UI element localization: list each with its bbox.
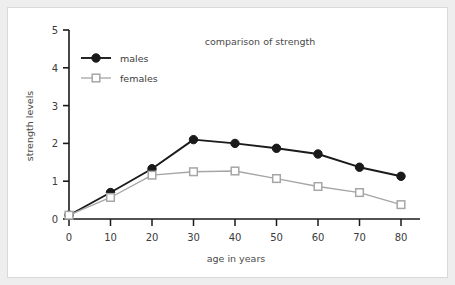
x-axis-title: age in years xyxy=(207,253,266,264)
marker-females-80 xyxy=(397,201,405,209)
marker-females-50 xyxy=(273,175,281,183)
x-tick-label-80: 80 xyxy=(395,232,408,243)
x-tick-label-60: 60 xyxy=(312,232,325,243)
marker-males-80 xyxy=(397,172,405,180)
chart-title: comparison of strength xyxy=(205,36,316,47)
marker-females-70 xyxy=(356,189,364,197)
legend-label-males: males xyxy=(120,53,149,64)
marker-females-10 xyxy=(107,194,115,202)
line-chart: 01234501020304050607080comparison of str… xyxy=(8,8,447,277)
legend-marker-females xyxy=(92,74,100,82)
legend-label-females: females xyxy=(120,73,158,84)
marker-males-40 xyxy=(231,139,239,147)
y-axis-title: strength levels xyxy=(24,91,35,162)
y-tick-label-4: 4 xyxy=(52,63,58,74)
legend: malesfemales xyxy=(81,53,158,84)
y-tick-label-1: 1 xyxy=(52,176,58,187)
marker-males-60 xyxy=(314,150,322,158)
marker-males-70 xyxy=(355,163,363,171)
marker-females-40 xyxy=(231,167,239,175)
marker-females-30 xyxy=(190,168,198,176)
marker-females-60 xyxy=(314,183,322,191)
y-tick-label-3: 3 xyxy=(52,101,58,112)
marker-females-20 xyxy=(148,171,156,179)
y-tick-label-2: 2 xyxy=(52,138,58,149)
image-frame: 01234501020304050607080comparison of str… xyxy=(0,0,455,285)
marker-males-30 xyxy=(189,135,197,143)
series-line-females xyxy=(69,171,401,215)
x-tick-label-30: 30 xyxy=(187,232,200,243)
x-tick-label-0: 0 xyxy=(66,232,72,243)
x-tick-label-40: 40 xyxy=(229,232,242,243)
y-tick-label-0: 0 xyxy=(52,214,58,225)
series-line-males xyxy=(69,140,401,216)
marker-males-50 xyxy=(272,144,280,152)
marker-females-0 xyxy=(65,211,73,219)
legend-marker-males xyxy=(92,54,100,62)
x-tick-label-50: 50 xyxy=(270,232,283,243)
x-tick-label-10: 10 xyxy=(104,232,117,243)
x-tick-label-70: 70 xyxy=(353,232,366,243)
x-tick-label-20: 20 xyxy=(146,232,159,243)
y-tick-label-5: 5 xyxy=(52,25,58,36)
chart-card: 01234501020304050607080comparison of str… xyxy=(7,7,448,278)
